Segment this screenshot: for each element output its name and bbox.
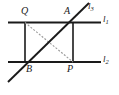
- vertex-label-A: A: [64, 6, 70, 16]
- line-label-l2-subscript: 2: [106, 58, 109, 65]
- line-label-l3: l3: [88, 2, 94, 11]
- line-label-l3-subscript: 3: [91, 5, 94, 12]
- vertex-label-Q: Q: [21, 6, 28, 16]
- geometry-figure: Q A B P l1 l2 l3: [0, 0, 119, 95]
- geometry-canvas: [0, 0, 119, 95]
- vertex-label-P: P: [67, 64, 73, 74]
- line-label-l2: l2: [103, 55, 109, 64]
- line-label-l1: l1: [103, 15, 109, 24]
- line-label-l1-subscript: 1: [106, 18, 109, 25]
- vertex-label-B: B: [26, 64, 32, 74]
